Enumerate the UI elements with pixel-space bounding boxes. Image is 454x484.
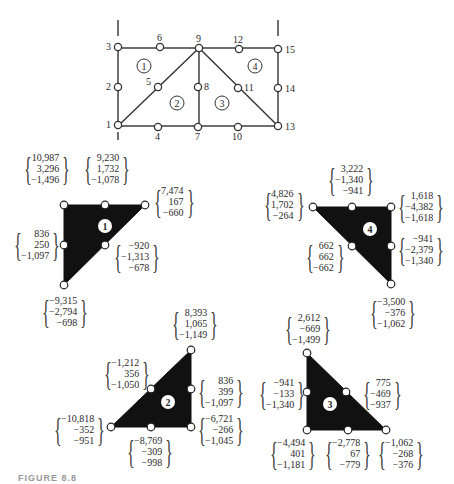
force-vector-element-2-top: {8,3931,065−1,149}	[170, 307, 216, 340]
vector-values: 10,9873,296−1,496	[30, 152, 60, 185]
force-vector-element-3-bottom-right: {−1,062−268−376}	[376, 437, 422, 470]
force-vector-element-1-hyp-mid: {−920−1,313−678}	[112, 240, 158, 273]
vector-component: 7,474	[161, 185, 184, 196]
mesh-node-label: 6	[157, 32, 162, 43]
left-brace: {	[172, 307, 176, 340]
vector-component: −266	[213, 424, 234, 435]
element-node	[141, 201, 149, 209]
vector-component: −1,050	[111, 379, 139, 390]
right-brace: }	[394, 377, 398, 410]
vector-component: −951	[74, 435, 95, 446]
right-brace: }	[236, 375, 240, 408]
vector-component: 1,065	[185, 318, 208, 329]
vector-component: −6,721	[205, 413, 233, 424]
vector-component: −1,045	[205, 435, 233, 446]
force-vector-element-1-bottom: {−9,315−2,794−698}	[40, 295, 86, 328]
element-number: 2	[175, 98, 180, 109]
force-vector-element-4-bottom: {−3,500−376−1,062}	[368, 296, 414, 329]
vector-component: 662	[319, 251, 334, 262]
force-vector-element-1-left-mid: {836250−1,097}	[12, 228, 58, 261]
left-brace: {	[264, 188, 268, 221]
vector-component: −1,340	[266, 399, 294, 410]
finite-element-diagram: 123456789101112131415 1234 1423	[0, 0, 454, 484]
element-number: 3	[220, 98, 225, 109]
vector-component: −698	[57, 317, 78, 328]
vector-component: −1,618	[405, 212, 433, 223]
force-vector-element-1-top-right: {7,474167−660}	[152, 185, 193, 218]
vector-values: 9,2301,732−1,078	[90, 152, 120, 185]
mesh-node-14	[274, 84, 281, 91]
mesh-node-label: 3	[106, 41, 111, 52]
vector-component: 836	[34, 228, 49, 239]
vector-values: −2,77867−779	[331, 437, 361, 470]
vector-values: −6,721−266−1,045	[204, 413, 234, 446]
vector-values: 662662−662	[312, 240, 335, 273]
vector-component: −10,818	[61, 413, 94, 424]
mesh-node-5	[154, 83, 161, 90]
right-brace: }	[308, 437, 312, 470]
element-number: 4	[253, 61, 258, 72]
right-brace: }	[152, 240, 156, 273]
element-number: 1	[142, 61, 147, 72]
mesh-node-11	[234, 84, 241, 91]
force-vector-element-2-bottom-left: {−10,818−352−951}	[52, 413, 103, 446]
left-brace: {	[306, 240, 310, 273]
force-vector-element-4-top-left: {4,8261,702−264}	[262, 188, 303, 221]
element-node	[348, 203, 356, 211]
vector-component: −941	[413, 233, 434, 244]
vector-component: −133	[274, 388, 295, 399]
vector-component: −998	[142, 457, 163, 468]
vector-component: −1,340	[405, 255, 433, 266]
vector-component: −1,340	[335, 174, 363, 185]
force-vector-element-4-top-mid: {3,222−1,340−941}	[326, 163, 372, 196]
vector-component: −469	[370, 388, 391, 399]
mesh-node-7	[194, 123, 201, 130]
mesh-node-label: 5	[146, 76, 151, 87]
vector-component: −1,499	[292, 334, 320, 345]
vector-values: 775−469−937	[369, 377, 392, 410]
vector-component: −264	[273, 210, 294, 221]
element-node	[107, 423, 115, 431]
vector-component: 1,618	[411, 190, 434, 201]
vector-values: 836250−1,097	[20, 228, 50, 261]
vector-component: −309	[142, 446, 163, 457]
vector-component: 167	[169, 196, 184, 207]
left-brace: {	[54, 413, 58, 446]
element-node	[101, 201, 109, 209]
left-brace: {	[270, 437, 274, 470]
vector-values: 4,8261,702−264	[270, 188, 295, 221]
vector-component: −1,212	[111, 357, 139, 368]
right-brace: }	[62, 152, 66, 185]
left-brace: {	[127, 435, 131, 468]
vector-values: 7,474167−660	[160, 185, 185, 218]
right-brace: }	[337, 240, 341, 273]
mesh-node-8	[194, 83, 201, 90]
vector-component: 3,222	[341, 163, 364, 174]
element-label: 3	[328, 399, 333, 410]
left-brace: {	[325, 437, 329, 470]
vector-component: 10,987	[32, 152, 60, 163]
vector-component: 3,296	[37, 163, 60, 174]
force-vector-element-3-bottom-left: {−4,494401−1,181}	[268, 437, 314, 470]
mesh-node-label: 2	[106, 81, 111, 92]
mesh-node-6	[156, 43, 163, 50]
element-node	[387, 203, 395, 211]
vector-values: −3,500−376−1,062	[376, 296, 406, 329]
vector-component: −662	[313, 262, 334, 273]
element-label: 2	[166, 397, 171, 408]
element-node	[344, 426, 352, 434]
force-vector-element-4-right-mid: {−941−2,379−1,340}	[396, 233, 442, 266]
vector-component: 67	[350, 448, 360, 459]
left-brace: {	[198, 375, 202, 408]
vector-component: −937	[370, 399, 391, 410]
force-vector-element-3-hyp-mid: {775−469−937}	[361, 377, 400, 410]
vector-component: −9,315	[49, 295, 77, 306]
left-brace: {	[42, 295, 46, 328]
right-brace: }	[297, 188, 301, 221]
right-brace: }	[436, 233, 440, 266]
mesh-node-label: 14	[285, 83, 295, 94]
figure-caption: FIGURE 8.8	[18, 473, 77, 483]
vector-component: −352	[74, 424, 95, 435]
element-node	[187, 385, 195, 393]
force-vector-element-2-bottom-right: {−6,721−266−1,045}	[196, 413, 242, 446]
